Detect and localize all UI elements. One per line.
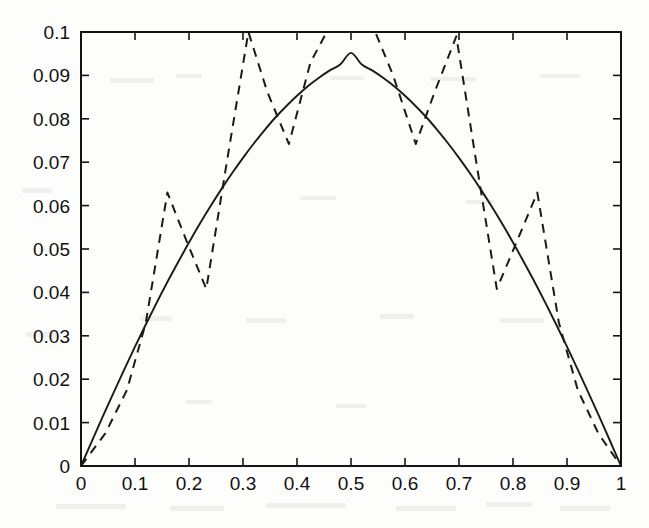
x-tick-label: 0 (76, 473, 87, 494)
y-tick-label: 0.08 (33, 109, 70, 130)
y-tick-label: 0.09 (33, 65, 70, 86)
y-tick-label: 0 (59, 456, 70, 477)
x-tick-label: 0.8 (500, 473, 526, 494)
x-tick-label: 0.3 (230, 473, 256, 494)
chart-figure: 00.10.20.30.40.50.60.70.80.91 00.010.020… (0, 0, 649, 528)
y-tick-label: 0.1 (44, 22, 70, 43)
x-tick-label: 0.7 (446, 473, 472, 494)
y-tick-label: 0.05 (33, 239, 70, 260)
plot-canvas: 00.10.20.30.40.50.60.70.80.91 00.010.020… (0, 0, 649, 528)
x-tick-label: 0.2 (176, 473, 202, 494)
x-tick-label: 0.4 (284, 473, 311, 494)
x-tick-label: 0.9 (554, 473, 580, 494)
y-tick-label: 0.02 (33, 369, 70, 390)
x-tick-label: 0.5 (338, 473, 364, 494)
x-tick-label: 0.1 (122, 473, 148, 494)
figure-background (0, 0, 649, 528)
y-tick-label: 0.04 (33, 282, 70, 303)
y-tick-label: 0.07 (33, 152, 70, 173)
y-tick-label: 0.06 (33, 196, 70, 217)
x-tick-label: 1 (616, 473, 627, 494)
y-tick-label: 0.01 (33, 413, 70, 434)
x-tick-label: 0.6 (392, 473, 418, 494)
y-tick-label: 0.03 (33, 326, 70, 347)
